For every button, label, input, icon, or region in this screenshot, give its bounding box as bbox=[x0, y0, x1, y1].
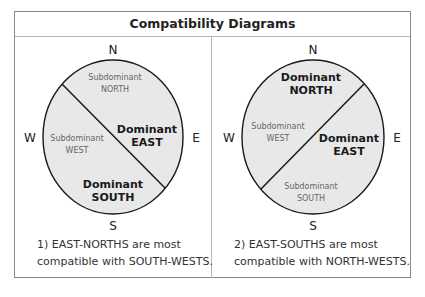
compass-n: N bbox=[309, 43, 318, 57]
caption-1-line2: compatible with SOUTH-WESTS. bbox=[37, 253, 213, 270]
region-north-line2: NORTH bbox=[289, 84, 332, 97]
region-south-line2: SOUTH bbox=[297, 194, 325, 203]
compass-e: E bbox=[393, 131, 401, 145]
caption-2-line2: compatible with NORTH-WESTS. bbox=[234, 253, 410, 270]
region-south-line1: Subdominant bbox=[284, 182, 337, 191]
region-east-line1: Dominant bbox=[117, 123, 177, 136]
compass-w: W bbox=[24, 131, 36, 145]
diagram-2: N S W E Dominant NORTH Subdominant WEST … bbox=[223, 43, 401, 233]
region-west-line2: WEST bbox=[267, 134, 290, 143]
region-north-line1: Dominant bbox=[281, 71, 341, 84]
caption-1: 1) EAST-NORTHS are most compatible with … bbox=[37, 236, 213, 270]
region-north-line2: NORTH bbox=[101, 85, 129, 94]
region-west-line2: WEST bbox=[66, 146, 89, 155]
region-east-line1: Dominant bbox=[319, 132, 379, 145]
compass-e: E bbox=[192, 131, 200, 145]
compass-w: W bbox=[223, 131, 235, 145]
region-east-line2: EAST bbox=[131, 136, 163, 149]
compass-s: S bbox=[109, 219, 117, 233]
region-south-line2: SOUTH bbox=[92, 191, 135, 204]
region-east-line2: EAST bbox=[333, 145, 365, 158]
region-west-line1: Subdominant bbox=[251, 122, 304, 131]
region-west-line1: Subdominant bbox=[50, 134, 103, 143]
region-south-line1: Dominant bbox=[83, 178, 143, 191]
caption-2: 2) EAST-SOUTHS are most compatible with … bbox=[234, 236, 410, 270]
diagram-1: N S W E Subdominant NORTH Subdominant WE… bbox=[24, 43, 200, 233]
compass-s: S bbox=[309, 219, 317, 233]
caption-1-line1: 1) EAST-NORTHS are most bbox=[37, 236, 213, 253]
compass-n: N bbox=[109, 43, 118, 57]
region-north-line1: Subdominant bbox=[88, 73, 141, 82]
caption-2-line1: 2) EAST-SOUTHS are most bbox=[234, 236, 410, 253]
